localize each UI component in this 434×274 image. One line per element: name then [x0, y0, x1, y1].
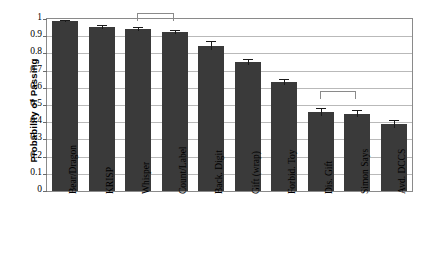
- y-axis-tick-mark: [43, 157, 47, 158]
- x-axis-tick-label: Forbid. Toy: [287, 149, 297, 194]
- y-axis-tick-labels: 10.90.80.70.60.50.40.30.20.10: [8, 0, 42, 274]
- y-axis-tick-mark: [43, 88, 47, 89]
- x-axis-tick-label: Bear/Dragon: [68, 145, 78, 194]
- y-axis-tick-mark: [43, 139, 47, 140]
- x-axis-tick-label: Count/Label: [178, 147, 188, 195]
- y-axis-tick-label: 0.2: [12, 151, 42, 161]
- x-axis-tick-label: KRISP: [105, 167, 115, 194]
- y-axis-tick-mark: [43, 174, 47, 175]
- x-axis-tick-label: Simon Says: [360, 149, 370, 194]
- x-axis-tick-label: Back. Digit: [214, 150, 224, 194]
- error-bar-cap: [97, 25, 107, 26]
- y-axis-tick-mark: [43, 36, 47, 37]
- y-axis-tick-label: 0.1: [12, 168, 42, 178]
- error-bar-cap: [243, 59, 253, 60]
- y-axis-tick-mark: [43, 191, 47, 192]
- error-bar: [394, 120, 395, 129]
- y-axis-tick-label: 1: [12, 13, 42, 23]
- significance-bracket: [320, 91, 357, 99]
- y-axis-tick-label: 0.5: [12, 99, 42, 109]
- y-axis-tick-label: 0: [12, 185, 42, 195]
- error-bar: [321, 108, 322, 116]
- y-axis-tick-mark: [43, 105, 47, 106]
- plot-area: [46, 18, 413, 192]
- error-bar: [211, 41, 212, 50]
- x-axis-tick-label: Gift (wrap): [251, 151, 261, 194]
- y-axis-tick-label: 0.4: [12, 116, 42, 126]
- error-bar: [357, 110, 358, 118]
- error-bar-cap: [133, 27, 143, 28]
- y-axis-tick-mark: [43, 71, 47, 72]
- y-axis-tick-label: 0.6: [12, 82, 42, 92]
- y-axis-tick-mark: [43, 19, 47, 20]
- x-axis-tick-label: Dis. Gift: [324, 161, 334, 194]
- x-axis-tick-label: Avd. DCCS: [397, 149, 407, 194]
- y-axis-tick-label: 0.8: [12, 47, 42, 57]
- y-axis-tick-label: 0.3: [12, 133, 42, 143]
- error-bar-cap: [352, 110, 362, 111]
- error-bar-cap: [206, 41, 216, 42]
- error-bar-cap: [389, 120, 399, 121]
- significance-bracket: [137, 13, 174, 21]
- y-axis-tick-label: 0.7: [12, 65, 42, 75]
- error-bar-cap: [316, 108, 326, 109]
- y-axis-tick-mark: [43, 53, 47, 54]
- y-axis-tick-label: 0.9: [12, 30, 42, 40]
- error-bar-cap: [60, 20, 70, 21]
- x-axis-tick-label: Whisper: [141, 162, 151, 194]
- error-bar-cap: [279, 79, 289, 80]
- error-bar-cap: [170, 30, 180, 31]
- y-axis-tick-mark: [43, 122, 47, 123]
- bar-chart: Probability of Passing 10.90.80.70.60.50…: [0, 0, 434, 274]
